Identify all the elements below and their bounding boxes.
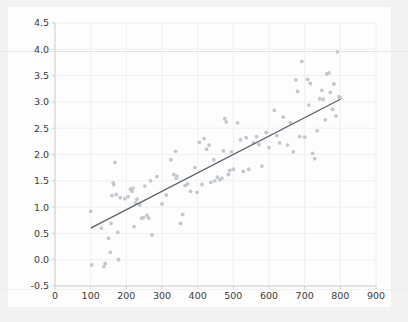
scatter-point: [230, 150, 234, 154]
scatter-point: [207, 143, 211, 147]
scatter-point: [315, 129, 319, 133]
scatter-point: [99, 226, 103, 230]
scatter-point: [132, 225, 136, 229]
scatter-point: [220, 176, 224, 180]
scatter-point: [198, 141, 202, 145]
x-tick-label: 500: [224, 290, 242, 301]
scatter-point: [313, 157, 317, 161]
scatter-point: [255, 135, 259, 139]
scatter-point: [331, 107, 335, 111]
scatter-point: [291, 150, 295, 154]
scatter-point: [193, 166, 197, 170]
y-tick-label: 3.0: [34, 96, 49, 107]
scatter-point: [241, 169, 245, 173]
scatter-point: [164, 193, 168, 197]
scatter-point: [321, 97, 325, 101]
scatter-point: [209, 180, 213, 184]
scatter-point: [264, 131, 268, 135]
scatter-point: [272, 108, 276, 112]
y-tick-label: 1.5: [34, 175, 49, 186]
scatter-point: [300, 59, 304, 63]
scatter-point: [328, 91, 332, 95]
y-tick-label: 3.5: [34, 70, 49, 81]
scatter-point: [205, 147, 209, 151]
scatter-point: [117, 258, 121, 262]
scatter-point: [143, 184, 147, 188]
scatter-point: [123, 197, 127, 201]
y-tick-label: 4.0: [34, 44, 49, 55]
scatter-point: [308, 82, 312, 86]
scatter-point: [149, 179, 153, 183]
scatter-point: [108, 250, 112, 254]
scatter-point: [306, 77, 310, 81]
scatter-point: [260, 164, 264, 168]
scatter-point: [150, 233, 154, 237]
x-tick-label: 100: [82, 290, 100, 301]
scatter-point: [228, 168, 232, 172]
scatter-point: [160, 202, 164, 206]
scatter-point: [286, 143, 290, 147]
scatter-point: [116, 230, 120, 234]
scatter-point: [236, 121, 240, 125]
x-tick-label: 700: [296, 290, 314, 301]
scatter-point: [231, 167, 235, 171]
scatter-point: [110, 194, 114, 198]
scatter-point: [189, 189, 193, 193]
scatter-point: [226, 173, 230, 177]
scatter-point: [186, 182, 190, 186]
y-tick-label: 2.5: [34, 123, 49, 134]
scatter-point: [244, 136, 248, 140]
x-tick-label: 800: [331, 290, 349, 301]
scatter-point: [169, 158, 173, 162]
scatter-point: [224, 120, 228, 124]
scatter-point: [334, 114, 338, 118]
scatter-point: [296, 89, 300, 93]
scatter-point: [126, 195, 130, 199]
scatter-point: [174, 149, 178, 153]
scatter-point: [195, 190, 199, 194]
y-tick-label: 0.0: [34, 254, 49, 265]
scatter-point: [336, 50, 340, 54]
scatter-point: [278, 141, 282, 145]
scatter-point: [323, 118, 327, 122]
scatter-point: [327, 71, 331, 75]
scatter-point: [307, 103, 311, 107]
scatter-point: [130, 189, 134, 193]
scatter-point: [320, 88, 324, 92]
scatter-point: [175, 174, 179, 178]
scatter-point: [179, 222, 183, 226]
scatter-point: [338, 96, 342, 100]
x-tick-labels: 0100200300400500600700800900: [52, 290, 385, 301]
scatter-point: [181, 213, 185, 217]
y-tick-label: 2.0: [34, 149, 49, 160]
scatter-point: [114, 193, 118, 197]
y-tick-label: 1.0: [34, 202, 49, 213]
scatter-point: [303, 135, 307, 139]
scatter-point: [90, 263, 94, 267]
y-tick-labels: -0.50.00.51.01.52.02.53.03.54.04.5: [30, 17, 49, 291]
scatter-point: [155, 175, 159, 179]
scatter-point: [112, 183, 116, 187]
scatter-point: [318, 97, 322, 101]
x-tick-label: 600: [260, 290, 278, 301]
x-tick-label: 0: [52, 290, 58, 301]
scatter-point: [103, 261, 107, 265]
scatter-point: [109, 222, 113, 226]
scatter-point: [257, 143, 261, 147]
y-tick-label: 4.5: [34, 17, 49, 28]
scatter-point: [113, 160, 117, 164]
scatter-point: [294, 78, 298, 82]
scatter-point: [281, 115, 285, 119]
x-tick-label: 200: [117, 290, 135, 301]
scatter-point: [221, 149, 225, 153]
scatter-point: [147, 216, 151, 220]
scatter-point: [89, 209, 93, 213]
x-tick-label: 900: [367, 290, 385, 301]
scatter-point: [202, 137, 206, 141]
scatter-plot-screenshot: -0.50.00.51.01.52.02.53.03.54.04.5 01002…: [0, 0, 408, 322]
gridlines: [55, 23, 376, 286]
scatter-point: [298, 135, 302, 139]
scatter-point: [212, 158, 216, 162]
scatter-point: [267, 146, 271, 150]
scatter-point: [239, 138, 243, 142]
